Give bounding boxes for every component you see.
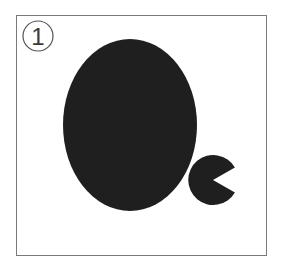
small-notched-circle-shape — [188, 155, 235, 205]
figure-number: 1 — [31, 23, 44, 50]
figure-number-badge: 1 — [23, 21, 53, 51]
figure-canvas: 1 — [0, 0, 286, 270]
large-ellipse-shape — [63, 39, 197, 211]
